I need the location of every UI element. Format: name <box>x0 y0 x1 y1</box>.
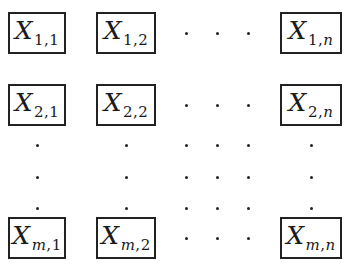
ellipsis-dot <box>247 237 250 240</box>
ellipsis-dot <box>216 237 219 240</box>
ellipsis-dot <box>310 176 313 179</box>
ellipsis-dot <box>125 144 128 147</box>
matrix-cell-1-2: X1,2 <box>96 12 156 54</box>
cell-label: Xm,1 <box>12 223 61 253</box>
cell-label: X1,n <box>289 18 334 48</box>
cell-label: X1,2 <box>104 18 149 48</box>
matrix-cell-2-1: X2,1 <box>8 84 66 126</box>
ellipsis-dot <box>247 207 250 210</box>
cell-label: Xm,n <box>286 223 336 253</box>
matrix-cell-m-1: Xm,1 <box>8 217 66 259</box>
ellipsis-dot <box>125 207 128 210</box>
cell-label: X2,1 <box>15 90 60 120</box>
ellipsis-dot <box>36 207 39 210</box>
cell-label: X2,n <box>289 90 334 120</box>
matrix-cell-1-1: X1,1 <box>8 12 66 54</box>
matrix-cell-1-n: X1,n <box>280 12 342 54</box>
ellipsis-dot <box>310 144 313 147</box>
ellipsis-dot <box>247 144 250 147</box>
ellipsis-dot <box>185 237 188 240</box>
matrix-cell-2-2: X2,2 <box>96 84 156 126</box>
matrix-cell-m-2: Xm,2 <box>96 217 156 259</box>
ellipsis-dot <box>247 104 250 107</box>
ellipsis-dot <box>216 32 219 35</box>
ellipsis-dot <box>125 176 128 179</box>
ellipsis-dot <box>185 32 188 35</box>
cell-label: X1,1 <box>15 18 60 48</box>
cell-label: X2,2 <box>104 90 149 120</box>
matrix-cell-2-n: X2,n <box>280 84 342 126</box>
ellipsis-dot <box>247 32 250 35</box>
ellipsis-dot <box>310 207 313 210</box>
ellipsis-dot <box>216 176 219 179</box>
ellipsis-dot <box>185 207 188 210</box>
ellipsis-dot <box>216 104 219 107</box>
ellipsis-dot <box>185 144 188 147</box>
ellipsis-dot <box>247 176 250 179</box>
ellipsis-dot <box>216 144 219 147</box>
ellipsis-dot <box>185 104 188 107</box>
ellipsis-dot <box>185 176 188 179</box>
cell-label: Xm,2 <box>101 223 150 253</box>
ellipsis-dot <box>216 207 219 210</box>
ellipsis-dot <box>36 144 39 147</box>
matrix-cell-m-n: Xm,n <box>280 217 342 259</box>
ellipsis-dot <box>36 176 39 179</box>
